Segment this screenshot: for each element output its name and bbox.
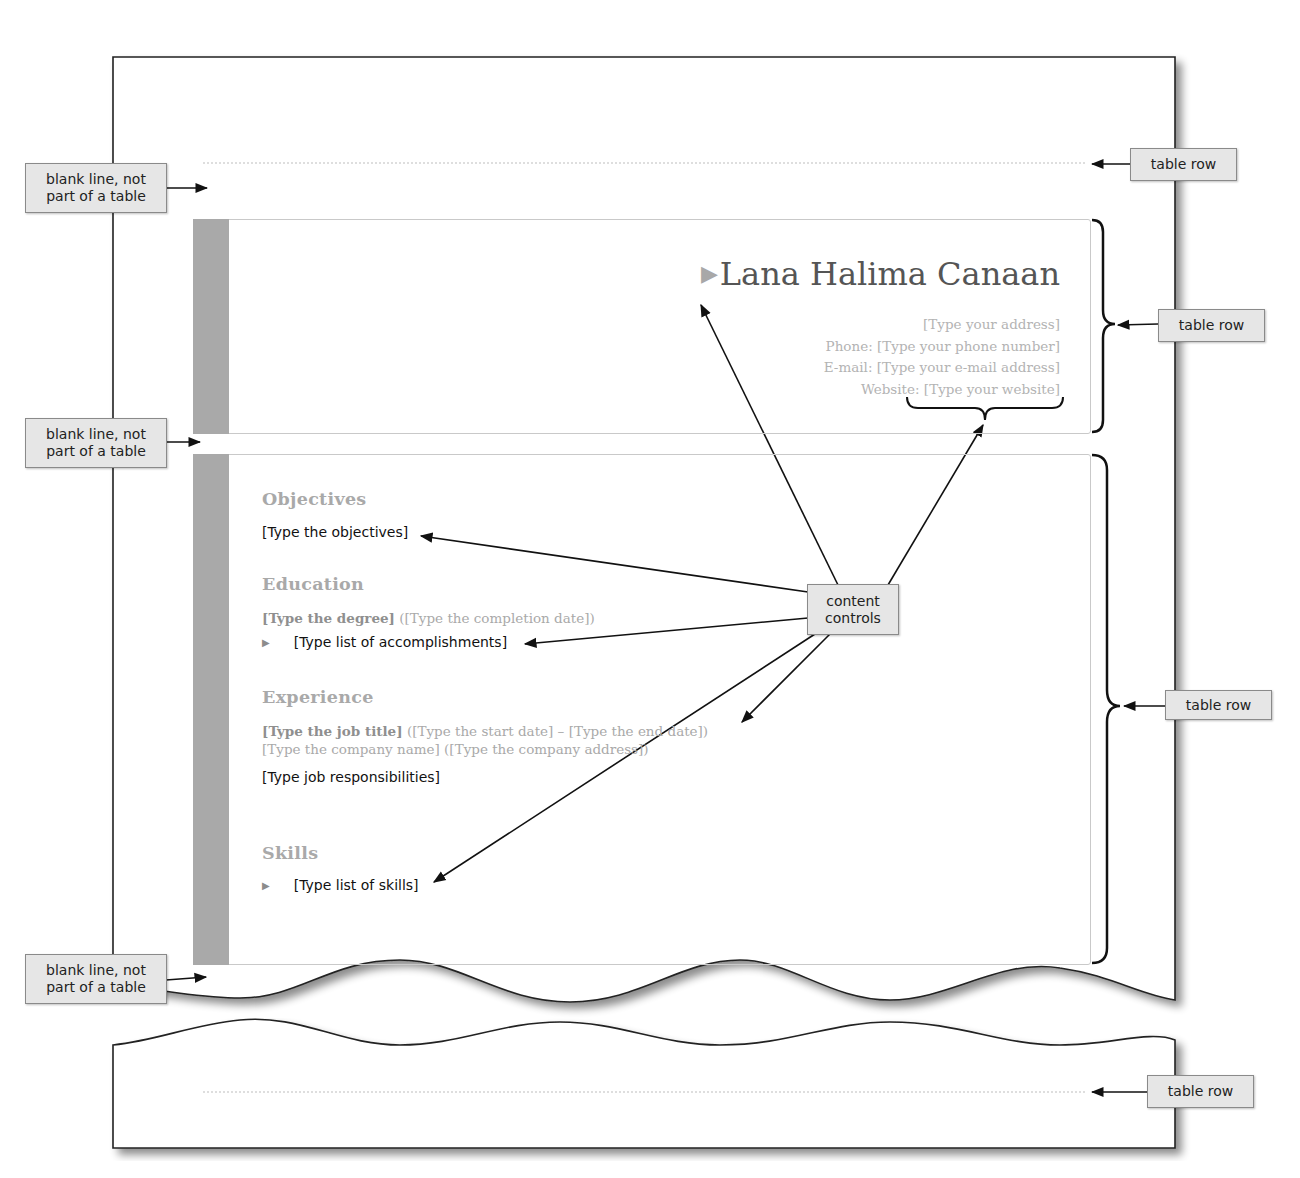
completion-date-field[interactable]: ([Type the completion date]) (395, 610, 595, 626)
accomplishments-item: ▶[Type list of accomplishments] (262, 634, 507, 650)
job-title-line: [Type the job title] ([Type the start da… (262, 723, 708, 739)
skills-heading: Skills (262, 843, 318, 863)
responsibilities-field[interactable]: [Type job responsibilities] (262, 769, 440, 785)
document-page-bottom (113, 1019, 1175, 1148)
email-field[interactable]: E-mail: [Type your e-mail address] (824, 357, 1060, 379)
skills-item: ▶[Type list of skills] (262, 877, 419, 893)
education-degree-line: [Type the degree] ([Type the completion … (262, 610, 595, 626)
experience-heading: Experience (262, 687, 374, 707)
company-field[interactable]: [Type the company name] ([Type the compa… (262, 741, 649, 757)
objectives-heading: Objectives (262, 489, 367, 509)
phone-field[interactable]: Phone: [Type your phone number] (824, 336, 1060, 358)
degree-field[interactable]: [Type the degree] (262, 610, 395, 626)
body-side-bar (193, 454, 229, 965)
callout-content-controls: content controls (807, 584, 899, 635)
address-field[interactable]: [Type your address] (824, 314, 1060, 336)
objectives-field[interactable]: [Type the objectives] (262, 524, 408, 540)
callout-table-row-3: table row (1165, 690, 1272, 720)
header-side-bar (193, 219, 229, 434)
callout-table-row-2: table row (1158, 309, 1265, 342)
resume-name-text[interactable]: Lana Halima Canaan (720, 255, 1060, 293)
website-line: Website: [Type your website] (824, 379, 1060, 401)
callout-blank-line-1: blank line, not part of a table (25, 163, 167, 213)
bullet-icon: ▶ (262, 880, 270, 891)
callout-blank-line-2: blank line, not part of a table (25, 418, 167, 468)
skills-field[interactable]: [Type list of skills] (294, 877, 419, 893)
contact-block: [Type your address] Phone: [Type your ph… (824, 314, 1060, 400)
callout-blank-line-3: blank line, not part of a table (25, 954, 167, 1004)
resume-name[interactable]: ▶Lana Halima Canaan (701, 255, 1060, 293)
bullet-icon: ▶ (262, 637, 270, 648)
job-dates-field[interactable]: ([Type the start date] – [Type the end d… (403, 723, 709, 739)
accomplishments-field[interactable]: [Type list of accomplishments] (294, 634, 507, 650)
callout-table-row-1: table row (1130, 148, 1237, 181)
education-heading: Education (262, 574, 364, 594)
job-title-field[interactable]: [Type the job title] (262, 723, 403, 739)
callout-table-row-4: table row (1147, 1075, 1254, 1108)
website-field[interactable]: [Type your website] (924, 381, 1060, 397)
content-control-handle-icon: ▶ (701, 261, 718, 286)
website-label: Website: (861, 381, 924, 397)
